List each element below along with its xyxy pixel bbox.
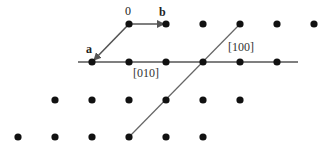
lattice-point <box>125 58 132 65</box>
lattice-point <box>51 133 58 140</box>
lattice-point <box>199 96 206 103</box>
vector-a-arrow <box>94 24 129 60</box>
lattice-point <box>162 20 169 27</box>
lattice-point <box>236 20 243 27</box>
direction-010-label: [010] <box>133 66 159 80</box>
lattice-point <box>14 133 21 140</box>
lattice-point <box>162 96 169 103</box>
lattice-point <box>236 58 243 65</box>
lattice-point <box>162 58 169 65</box>
lattice-point <box>310 20 317 27</box>
lattice-point <box>88 96 95 103</box>
vector-b-label: b <box>159 5 166 19</box>
lattice-point <box>199 20 206 27</box>
lattice-point <box>273 20 280 27</box>
origin-label: 0 <box>125 4 131 18</box>
lattice-point <box>125 96 132 103</box>
direction-100-label: [100] <box>228 40 254 54</box>
lattice-point <box>88 133 95 140</box>
lattice-svg: 0 b a [010] [100] <box>0 0 336 147</box>
crystal-lattice-diagram: 0 b a [010] [100] <box>0 0 336 147</box>
lattice-point <box>236 96 243 103</box>
lattice-point <box>162 133 169 140</box>
lattice-point <box>51 96 58 103</box>
lattice-point <box>125 133 132 140</box>
lattice-point <box>125 20 132 27</box>
lattice-point <box>199 133 206 140</box>
lattice-point <box>199 58 206 65</box>
lattice-points <box>14 20 317 140</box>
direction-100-line <box>129 24 240 137</box>
lattice-point <box>273 58 280 65</box>
lattice-point <box>88 58 95 65</box>
vector-a-label: a <box>86 42 92 56</box>
